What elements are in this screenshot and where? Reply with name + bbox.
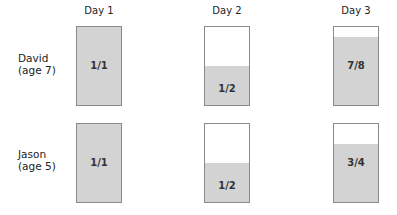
fraction-label: 1/2 bbox=[205, 180, 249, 191]
column-header-day-2: Day 2 bbox=[197, 5, 257, 16]
row-label-jason: Jason (age 5) bbox=[18, 148, 56, 172]
cell-jason-day-3: 3/4 bbox=[333, 123, 379, 203]
cell-jason-day-2: 1/2 bbox=[204, 123, 250, 203]
row-name: Jason bbox=[18, 148, 56, 160]
cell-david-day-1: 1/1 bbox=[76, 26, 122, 106]
fraction-label: 1/1 bbox=[77, 157, 121, 168]
cell-david-day-2: 1/2 bbox=[204, 26, 250, 106]
row-name: David bbox=[18, 52, 56, 64]
cell-david-day-3: 7/8 bbox=[333, 26, 379, 106]
row-age: (age 7) bbox=[18, 64, 56, 76]
fraction-label: 1/1 bbox=[77, 60, 121, 71]
column-header-day-3: Day 3 bbox=[326, 5, 386, 16]
cell-jason-day-1: 1/1 bbox=[76, 123, 122, 203]
row-label-david: David (age 7) bbox=[18, 52, 56, 76]
fraction-label: 7/8 bbox=[334, 60, 378, 71]
fill-level bbox=[334, 144, 378, 203]
column-header-day-1: Day 1 bbox=[69, 5, 129, 16]
row-age: (age 5) bbox=[18, 160, 56, 172]
fraction-label: 3/4 bbox=[334, 157, 378, 168]
fraction-label: 1/2 bbox=[205, 83, 249, 94]
